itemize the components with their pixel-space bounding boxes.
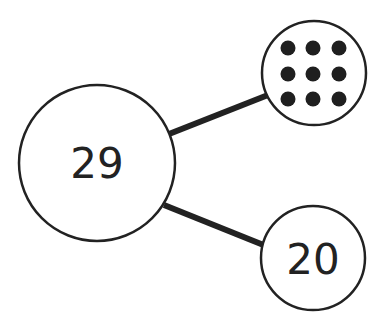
dot	[281, 41, 296, 56]
dot-array	[281, 41, 347, 107]
dot	[306, 41, 321, 56]
dot	[332, 41, 347, 56]
connector-top	[169, 95, 268, 134]
number-bond-diagram: 29 20	[0, 0, 391, 331]
dot	[281, 92, 296, 107]
part-value: 20	[286, 235, 339, 284]
dot	[306, 92, 321, 107]
connector-bottom	[164, 205, 266, 246]
dot	[306, 67, 321, 82]
dot	[332, 67, 347, 82]
whole-circle: 29	[19, 85, 175, 241]
part-circle-dots	[262, 21, 366, 125]
dot	[332, 92, 347, 107]
part-circle-number: 20	[261, 206, 365, 310]
whole-value: 29	[70, 139, 123, 188]
dot	[281, 67, 296, 82]
